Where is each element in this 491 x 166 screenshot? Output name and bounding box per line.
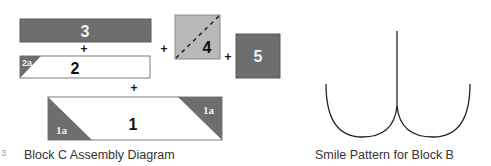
piece-5-label: 5 [254,48,263,65]
plus-sign: + [160,42,167,56]
piece-1-label: 1 [129,116,138,133]
plus-sign: + [130,81,137,95]
smile-caption: Smile Pattern for Block B [315,148,454,162]
piece-2: 2a 2 [20,56,150,78]
smile-pattern [326,31,470,137]
piece-2-label: 2 [71,60,80,77]
block-diagrams: 3 + 2a 2 + 4 + 5 + 1a 1a 1 3 [0,0,491,166]
piece-1a-label-right: 1a [203,104,215,116]
plus-sign: + [80,42,87,56]
piece-5: 5 [236,34,280,78]
piece-1a-label-left: 1a [56,124,68,136]
piece-3: 3 [20,19,151,42]
margin-mark: 3 [1,148,6,158]
piece-4-label: 4 [203,39,212,56]
plus-sign: + [224,50,231,64]
assembly-caption: Block C Assembly Diagram [24,148,175,162]
piece-2a-label: 2a [22,58,33,68]
piece-4: 4 [175,15,220,59]
piece-3-label: 3 [81,23,90,40]
piece-1: 1a 1a 1 [48,97,222,140]
